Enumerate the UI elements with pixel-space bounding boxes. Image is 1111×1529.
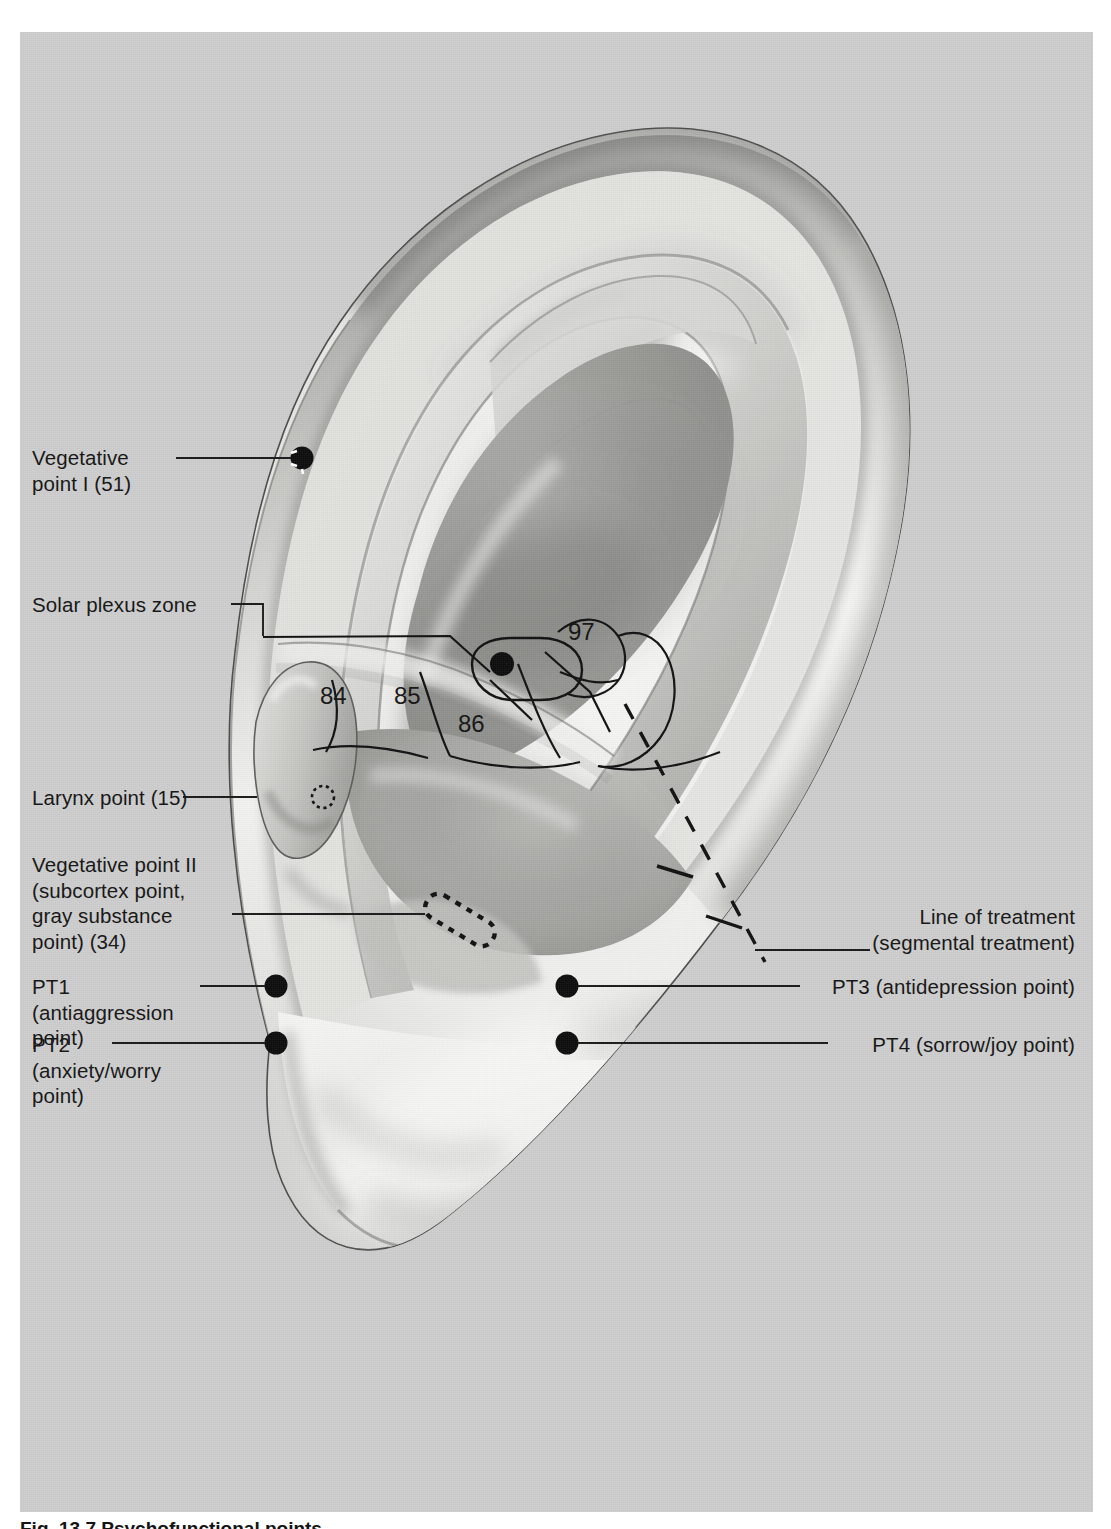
ear-illustration [20, 32, 1093, 1512]
label-vegetative-point-1: Vegetative point I (51) [32, 445, 131, 496]
illustration-panel: 84 85 86 97 Vegetative point I (51) Sola… [20, 32, 1093, 1512]
marker-pt1 [265, 975, 288, 998]
label-pt3: PT3 (antidepression point) [832, 974, 1075, 1000]
figure-caption: Fig. 13.7 Psychofunctional points [20, 1516, 920, 1529]
zone-number-84: 84 [320, 682, 347, 710]
ear-drawing [20, 32, 1093, 1512]
zone-number-97: 97 [568, 618, 595, 646]
zone-number-86: 86 [458, 710, 485, 738]
label-vegetative-point-2: Vegetative point II (subcortex point, gr… [32, 852, 197, 954]
marker-pt3 [556, 975, 579, 998]
label-pt2: PT2 (anxiety/worry point) [32, 1032, 161, 1109]
marker-pt4 [556, 1032, 579, 1055]
zone-number-85: 85 [394, 682, 421, 710]
label-line-of-treatment: Line of treatment (segmental treatment) [872, 904, 1075, 955]
solar-plexus-dot [490, 652, 514, 676]
label-larynx-point: Larynx point (15) [32, 785, 188, 811]
label-solar-plexus-zone: Solar plexus zone [32, 592, 197, 618]
label-pt4: PT4 (sorrow/joy point) [872, 1032, 1075, 1058]
marker-pt2 [265, 1032, 288, 1055]
